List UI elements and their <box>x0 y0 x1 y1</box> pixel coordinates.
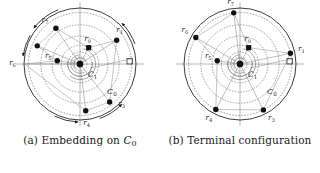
robot-node-label: r0 <box>244 34 251 44</box>
caption-panel-b: (b) Terminal configuration <box>160 134 320 148</box>
caption-b-text: Terminal configuration <box>187 134 311 146</box>
caption-a-symbol: C <box>123 134 131 146</box>
caption-a-symbol-sub: 0 <box>132 139 137 148</box>
caption-a-text: Embedding on <box>41 134 119 146</box>
diagram-svg-a: r0r1r3r4r5r6r7C1C0 <box>0 0 160 132</box>
robot-node[interactable] <box>246 45 251 50</box>
inner-circle-label-c1: C1 <box>248 70 257 80</box>
figure-panel-b: r0r1r3r4r5r6r7C1C0 (b) Terminal configur… <box>160 0 320 173</box>
robot-nodes: r0r1r3r4r5r6r7 <box>9 15 125 128</box>
robot-node[interactable] <box>107 99 112 104</box>
robot-node[interactable] <box>114 38 119 43</box>
right-angle-marker <box>90 59 133 69</box>
right-angle-marker <box>250 59 293 69</box>
robot-node[interactable] <box>213 107 218 112</box>
radial-spokes <box>25 28 117 110</box>
robot-node[interactable] <box>35 43 40 48</box>
robot-node-label: r7 <box>42 15 49 25</box>
caption-b-prefix: (b) <box>169 134 184 146</box>
robot-node[interactable] <box>215 58 220 63</box>
center-hub-node[interactable] <box>77 61 83 67</box>
robot-node-label: r3 <box>118 99 125 109</box>
center-hub-node[interactable] <box>237 61 243 67</box>
outer-circle-label-c0: C0 <box>107 87 117 97</box>
robot-node[interactable] <box>83 108 88 113</box>
robot-node[interactable] <box>261 107 266 112</box>
robot-node-label: r3 <box>268 113 275 123</box>
diagram-svg-b: r0r1r3r4r5r6r7C1C0 <box>160 0 320 132</box>
robot-node[interactable] <box>193 35 198 40</box>
inner-circle-label-c1: C1 <box>88 70 97 80</box>
robot-node-label: r6 <box>181 25 188 35</box>
diagram-embedding-on-c0: r0r1r3r4r5r6r7C1C0 <box>0 0 160 132</box>
robot-node-label: r0 <box>84 34 91 44</box>
robot-node[interactable] <box>86 45 91 50</box>
figure-panel-a: r0r1r3r4r5r6r7C1C0 (a) Embedding on C0 <box>0 0 160 173</box>
robot-node[interactable] <box>55 58 60 63</box>
caption-a-prefix: (a) <box>23 134 38 146</box>
diagram-terminal-configuration: r0r1r3r4r5r6r7C1C0 <box>160 0 320 132</box>
robot-node-label: r4 <box>205 113 212 123</box>
figure-container: r0r1r3r4r5r6r7C1C0 (a) Embedding on C0 r… <box>0 0 320 173</box>
robot-node[interactable] <box>288 51 293 56</box>
caption-panel-a: (a) Embedding on C0 <box>0 134 160 148</box>
outer-circle-label-c0: C0 <box>267 87 277 97</box>
robot-node-label: r5 <box>205 51 212 61</box>
robot-node-label: r6 <box>9 58 16 68</box>
embedding-chords <box>25 28 117 110</box>
robot-node-label: r5 <box>45 51 52 61</box>
robot-node[interactable] <box>231 10 236 15</box>
robot-node-label: r1 <box>298 44 305 54</box>
robot-node-label: r7 <box>227 0 234 7</box>
robot-node[interactable] <box>53 26 58 31</box>
